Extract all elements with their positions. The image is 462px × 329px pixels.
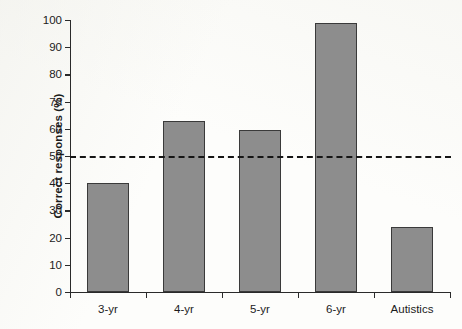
- y-tick-mark: [65, 210, 70, 211]
- y-tick-label: 30: [49, 204, 62, 216]
- y-tick-mark: [65, 238, 70, 239]
- y-tick-mark: [65, 265, 70, 266]
- x-tick-mark: [374, 292, 375, 298]
- bar-4-yr: [163, 121, 205, 292]
- x-tick-label: 6-yr: [326, 303, 346, 315]
- bar-5-yr: [239, 130, 281, 292]
- chance-level-line: [70, 156, 451, 158]
- y-tick-label: 0: [56, 286, 62, 298]
- y-tick-label: 60: [49, 123, 62, 135]
- y-tick-label: 100: [43, 14, 62, 26]
- y-tick-label: 70: [49, 96, 62, 108]
- y-tick-mark: [65, 47, 70, 48]
- x-tick-mark: [298, 292, 299, 298]
- y-tick-mark: [65, 129, 70, 130]
- y-tick-label: 90: [49, 41, 62, 53]
- x-tick-mark: [450, 292, 451, 298]
- y-tick-label: 40: [49, 177, 62, 189]
- y-tick-mark: [65, 183, 70, 184]
- x-axis-line: [70, 292, 450, 293]
- x-tick-mark: [146, 292, 147, 298]
- y-tick-label: 20: [49, 232, 62, 244]
- x-tick-label: 4-yr: [174, 303, 194, 315]
- x-tick-label: 3-yr: [98, 303, 118, 315]
- x-tick-mark: [70, 292, 71, 298]
- x-tick-label: Autistics: [391, 303, 434, 315]
- x-tick-label: 5-yr: [250, 303, 270, 315]
- y-tick-mark: [65, 20, 70, 21]
- x-tick-mark: [222, 292, 223, 298]
- y-tick-label: 10: [49, 259, 62, 271]
- bar-3-yr: [87, 183, 129, 292]
- y-tick-label: 80: [49, 68, 62, 80]
- bar-chart-figure: Correct responses (%) 010203040506070809…: [0, 0, 462, 329]
- plot-area: 0102030405060708090100 3-yr4-yr5-yr6-yrA…: [70, 20, 450, 292]
- y-tick-label: 50: [49, 150, 62, 162]
- y-tick-mark: [65, 74, 70, 75]
- bar-autistics: [391, 227, 433, 292]
- y-tick-mark: [65, 102, 70, 103]
